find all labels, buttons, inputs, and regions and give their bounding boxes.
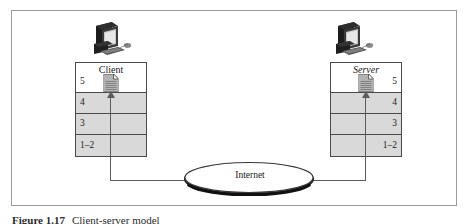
figure-caption: Figure 1.17Client-server model (12, 214, 452, 224)
client-document-page-icon (104, 74, 119, 92)
figure-number: Figure 1.17 (12, 214, 65, 224)
server-arrow-up-icon (362, 91, 370, 98)
figure-container: Client 5 4 3 (0, 0, 469, 224)
internet-cloud: Internet (183, 160, 317, 196)
figure-caption-text: Client-server model (72, 214, 160, 224)
server-tier-3: 3 (331, 114, 401, 135)
client-internal-line (110, 97, 111, 155)
server-protocol-stack: Server 5 4 3 (330, 62, 402, 157)
client-arrow-up-icon (107, 91, 115, 98)
client-tier-5-label: 5 (80, 77, 85, 87)
client-tier-5: Client 5 (76, 63, 146, 93)
server-internal-line (365, 97, 366, 155)
client-tier-4-label: 4 (80, 98, 85, 108)
client-tier-3: 3 (76, 114, 146, 135)
client-tier-1-2: 1–2 (76, 135, 146, 156)
client-tier-1-2-label: 1–2 (80, 141, 94, 151)
client-to-internet-vertical (110, 155, 111, 181)
server-tier-1-2-label: 1–2 (383, 141, 397, 151)
server-to-internet-vertical (365, 155, 366, 181)
client-to-internet-horizontal (110, 180, 192, 181)
client-computer-icon (88, 20, 134, 60)
client-protocol-stack: Client 5 4 3 (75, 62, 147, 157)
server-document-page-icon (359, 74, 374, 92)
internet-label: Internet (183, 171, 317, 181)
server-tier-5: Server 5 (331, 63, 401, 93)
server-tier-1-2: 1–2 (331, 135, 401, 156)
server-tier-4-label: 4 (392, 98, 397, 108)
client-tier-3-label: 3 (80, 119, 85, 129)
server-computer-icon (330, 20, 376, 60)
server-tier-5-label: 5 (392, 77, 397, 87)
server-tier-3-label: 3 (392, 119, 397, 129)
